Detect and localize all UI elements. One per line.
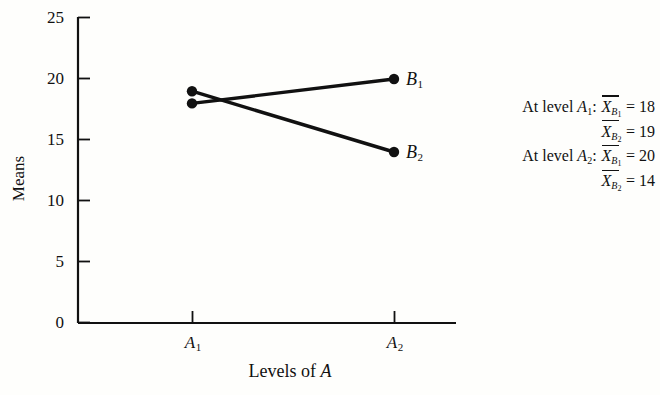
annotation-lead-var-text: A	[577, 98, 587, 115]
mean-subscript-index: 1	[617, 159, 621, 168]
mean-subscript-index: 2	[617, 135, 621, 144]
y-axis-title: Means	[10, 139, 27, 219]
annotation-lead-text: At level	[522, 98, 573, 115]
mean-subscript: B1	[611, 106, 621, 117]
y-tick-label-10: 10	[30, 192, 64, 209]
annotation-equals: =	[622, 123, 635, 140]
annotation-value: 19	[639, 123, 655, 140]
overbar-icon	[602, 145, 619, 146]
data-point-b1-a1	[187, 98, 197, 108]
overbar-icon	[602, 170, 619, 171]
data-point-b1-a2	[389, 74, 399, 84]
series-label-b1: B1	[406, 70, 423, 90]
annotation-row: XB2= 19	[430, 121, 655, 146]
x-axis-title: Levels of A	[190, 362, 390, 380]
annotation-lead-colon: :	[592, 98, 596, 115]
annotation-equals: =	[622, 98, 635, 115]
y-tick-label-0: 0	[30, 314, 64, 331]
mean-symbol-text: X	[602, 98, 612, 115]
x-axis-title-var: A	[320, 361, 331, 381]
y-tick-label-5: 5	[30, 253, 64, 270]
annotation-lead: At level A2:	[522, 145, 601, 167]
annotation-value: 18	[639, 98, 655, 115]
annotation-expression: XB1= 20	[602, 145, 655, 170]
mean-symbol: XB2	[602, 172, 622, 189]
y-tick-label-15: 15	[30, 131, 64, 148]
annotation-equals: =	[622, 147, 635, 164]
data-point-b2-a1	[187, 86, 197, 96]
series-label-b1-text: B	[406, 69, 417, 89]
x-tick-label-a2-text: A	[387, 333, 397, 352]
series-label-b2-sub: 2	[417, 151, 423, 163]
x-tick-label-a1-text: A	[185, 333, 195, 352]
annotation-equals: =	[622, 172, 635, 189]
overbar-icon	[602, 120, 619, 121]
annotation-row: XB2= 14	[430, 170, 655, 195]
means-annotation-block: At level A1: XB1= 18 XB2= 19 At level A2…	[430, 96, 655, 195]
x-tick-label-a1: A1	[173, 334, 213, 353]
mean-subscript: B2	[611, 180, 621, 191]
annotation-lead-var-text: A	[577, 147, 587, 164]
mean-symbol: XB2	[602, 123, 622, 140]
annotation-expression: XB2= 14	[602, 170, 655, 195]
mean-subscript: B1	[611, 155, 621, 166]
series-label-b2: B2	[406, 143, 423, 163]
series-label-b2-text: B	[406, 142, 417, 162]
x-tick-label-a2-sub: 2	[397, 341, 403, 353]
mean-symbol-text: X	[602, 147, 612, 164]
x-axis-ticks	[193, 311, 395, 323]
annotation-lead: At level A1:	[522, 96, 601, 118]
interaction-line-chart: 25 20 15 10 5 0 Means A1 A2 Levels of A …	[0, 0, 660, 395]
annotation-lead-var: A1	[577, 98, 592, 115]
annotation-lead-text: At level	[522, 147, 573, 164]
mean-subscript-index: 1	[617, 110, 621, 119]
annotation-row: At level A2: XB1= 20	[430, 145, 655, 170]
x-tick-label-a2: A2	[375, 334, 415, 353]
series-label-b1-sub: 1	[417, 78, 423, 90]
annotation-lead-var: A2	[577, 147, 592, 164]
data-point-b2-a2	[389, 147, 399, 157]
mean-symbol: XB1	[602, 147, 622, 164]
series-line-b2	[192, 91, 394, 152]
chart-plot-area	[0, 0, 660, 395]
x-tick-label-a1-sub: 1	[195, 341, 201, 353]
annotation-row: At level A1: XB1= 18	[430, 96, 655, 121]
annotation-value: 14	[639, 172, 655, 189]
overbar-icon	[602, 95, 619, 96]
mean-subscript-index: 2	[617, 184, 621, 193]
mean-symbol-text: X	[602, 172, 612, 189]
y-tick-label-25: 25	[30, 9, 64, 26]
mean-symbol: XB1	[602, 98, 622, 115]
y-axis-ticks	[78, 18, 90, 323]
mean-symbol-text: X	[602, 123, 612, 140]
mean-subscript: B2	[611, 131, 621, 142]
annotation-lead-colon: :	[592, 147, 596, 164]
y-tick-label-20: 20	[30, 70, 64, 87]
annotation-value: 20	[639, 147, 655, 164]
x-axis-title-prefix: Levels of	[249, 361, 316, 381]
annotation-expression: XB2= 19	[602, 121, 655, 146]
annotation-expression: XB1= 18	[602, 96, 655, 121]
